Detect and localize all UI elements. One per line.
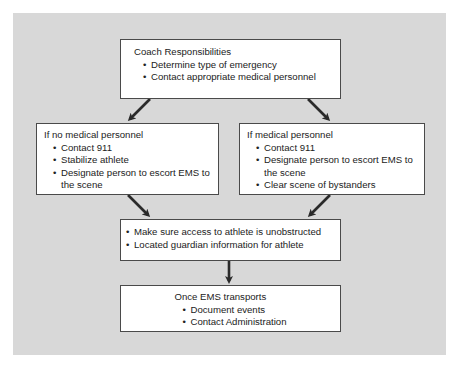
bullet-list: Make sure access to athlete is unobstruc… <box>126 226 340 251</box>
no-medical-personnel-box: If no medical personnel Contact 911 Stab… <box>36 123 219 195</box>
box-title: Once EMS transports <box>175 291 287 304</box>
list-item: Located guardian information for athlete <box>126 239 340 252</box>
list-item: Designate person to escort EMS to the sc… <box>256 154 424 179</box>
coach-responsibilities-box: Coach Responsibilities Determine type of… <box>120 39 341 99</box>
arrow-coach-to-medical <box>308 99 328 119</box>
box-content: Once EMS transports Document events Cont… <box>175 291 287 329</box>
bullet-list: Document events Contact Administration <box>183 304 287 329</box>
box-title: If medical personnel <box>247 129 424 142</box>
list-item: Contact 911 <box>53 142 218 155</box>
list-item: Determine type of emergency <box>143 59 340 72</box>
bullet-list: Determine type of emergency Contact appr… <box>143 59 340 84</box>
ems-transport-box: Once EMS transports Document events Cont… <box>120 285 341 332</box>
list-item: Contact 911 <box>256 142 424 155</box>
athlete-access-box: Make sure access to athlete is unobstruc… <box>120 219 341 261</box>
bullet-list: Contact 911 Designate person to escort E… <box>256 142 424 192</box>
bullet-list: Contact 911 Stabilize athlete Designate … <box>53 142 218 192</box>
arrow-medical-to-access <box>310 195 330 215</box>
list-item: Designate person to escort EMS to the sc… <box>53 167 218 192</box>
list-item: Contact Administration <box>183 316 287 329</box>
list-item: Stabilize athlete <box>53 154 218 167</box>
arrow-coach-to-no-medical <box>130 99 150 119</box>
list-item: Clear scene of bystanders <box>256 179 424 192</box>
box-title: If no medical personnel <box>44 129 218 142</box>
medical-personnel-box: If medical personnel Contact 911 Designa… <box>239 123 425 195</box>
list-item: Contact appropriate medical personnel <box>143 71 340 84</box>
list-item: Make sure access to athlete is unobstruc… <box>126 226 340 239</box>
arrow-no-medical-to-access <box>128 195 148 215</box>
box-title: Coach Responsibilities <box>134 46 340 59</box>
list-item: Document events <box>183 304 287 317</box>
